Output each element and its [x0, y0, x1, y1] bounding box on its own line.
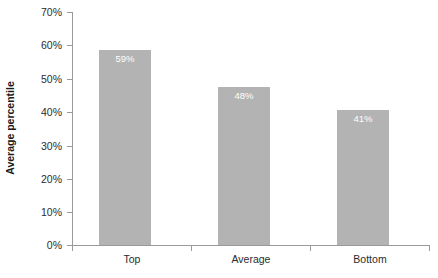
bar-average — [218, 87, 270, 245]
bar-value-average: 48% — [234, 90, 254, 101]
bar-bottom — [337, 110, 389, 245]
y-tick-label-30: 30% — [41, 140, 62, 152]
y-tick-label-40: 40% — [41, 106, 62, 118]
y-tick-label-0: 0% — [47, 239, 62, 251]
bar-value-top: 59% — [115, 53, 135, 64]
x-tick-label-average: Average — [232, 253, 271, 265]
bar-top — [99, 50, 151, 245]
y-axis-title: Average percentile — [4, 81, 16, 175]
chart-canvas: Average percentile 70% 60% 50% 40% 30% 2… — [0, 0, 438, 278]
x-tick-label-bottom: Bottom — [353, 253, 387, 265]
x-tick-label-top: Top — [124, 253, 141, 265]
y-tick-label-20: 20% — [41, 173, 62, 185]
y-tick-label-10: 10% — [41, 206, 62, 218]
y-tick-label-70: 70% — [41, 6, 62, 18]
y-tick-label-60: 60% — [41, 39, 62, 51]
bar-value-bottom: 41% — [353, 113, 373, 124]
bar-chart: Average percentile 70% 60% 50% 40% 30% 2… — [0, 0, 438, 278]
y-tick-label-50: 50% — [41, 73, 62, 85]
